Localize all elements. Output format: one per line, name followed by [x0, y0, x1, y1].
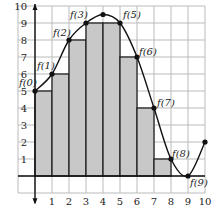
- x-tick-label: 7: [151, 196, 157, 207]
- y-tick-label: 10: [14, 1, 27, 12]
- point-label: f(0): [18, 77, 37, 88]
- data-point: [66, 37, 71, 42]
- point-label: f(8): [171, 148, 190, 159]
- point-label: f(5): [122, 9, 141, 20]
- riemann-rectangle: [86, 23, 103, 176]
- y-axis-arrow-down: [33, 198, 38, 204]
- riemann-rectangle: [137, 108, 154, 176]
- point-label: f(1): [36, 60, 55, 71]
- riemann-sum-chart: 1234567891012345678910 f(0)f(1)f(2)f(3)f…: [0, 0, 214, 207]
- y-tick-label: 3: [21, 120, 27, 131]
- data-point: [100, 12, 105, 17]
- data-point: [83, 20, 88, 25]
- riemann-rectangle: [103, 23, 120, 176]
- point-label: f(6): [138, 46, 157, 57]
- point-label: f(3): [69, 9, 88, 20]
- x-tick-label: 10: [199, 196, 212, 207]
- x-tick-label: 8: [168, 196, 174, 207]
- riemann-rectangle: [69, 40, 86, 176]
- x-tick-label: 4: [100, 196, 106, 207]
- y-tick-label: 7: [21, 52, 27, 63]
- x-tick-label: 2: [66, 196, 72, 207]
- y-tick-label: 2: [21, 137, 27, 148]
- riemann-rectangle: [120, 57, 137, 176]
- x-tick-label: 1: [49, 196, 55, 207]
- x-tick-label: 5: [117, 196, 123, 207]
- y-tick-label: 4: [21, 103, 27, 114]
- y-tick-label: 8: [21, 35, 27, 46]
- y-axis-arrow-up: [33, 4, 38, 10]
- y-tick-label: 1: [21, 154, 27, 165]
- point-label: f(7): [156, 97, 175, 108]
- point-label: f(2): [52, 27, 71, 38]
- data-point: [117, 20, 122, 25]
- data-point: [151, 105, 156, 110]
- data-point: [32, 88, 37, 93]
- data-point: [202, 139, 207, 144]
- riemann-rectangle: [154, 159, 171, 176]
- point-label: f(9): [189, 177, 208, 188]
- x-tick-label: 6: [134, 196, 140, 207]
- y-tick-label: 9: [21, 18, 27, 29]
- riemann-rectangle: [52, 74, 69, 176]
- x-tick-label: 3: [83, 196, 89, 207]
- data-point: [49, 71, 54, 76]
- riemann-rectangle: [35, 91, 52, 176]
- x-tick-label: 9: [185, 196, 191, 207]
